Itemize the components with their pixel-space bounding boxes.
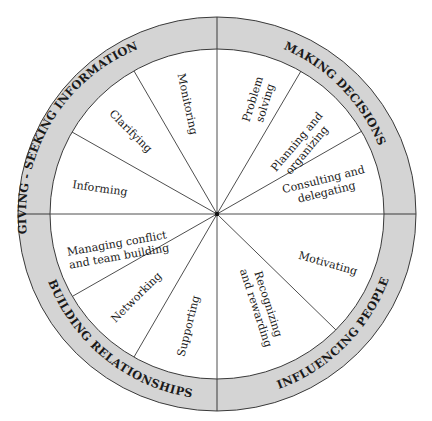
center-point <box>215 212 219 216</box>
leadership-wheel-diagram: GIVING - SEEKING INFORMATION MAKING DECI… <box>0 0 432 421</box>
